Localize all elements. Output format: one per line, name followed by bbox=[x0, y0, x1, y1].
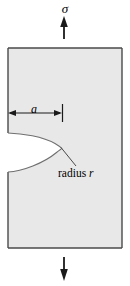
diagram-canvas bbox=[0, 0, 130, 286]
crack-length-label: a bbox=[0, 103, 68, 115]
radius-word: radius bbox=[58, 167, 86, 179]
radius-symbol: r bbox=[89, 167, 93, 179]
stress-symbol-label: σ bbox=[0, 2, 130, 15]
plate-body-shape bbox=[8, 48, 122, 248]
notch-radius-label: radius r bbox=[58, 168, 93, 180]
edge-notch-plate-diagram: σ a radius r bbox=[0, 0, 130, 286]
top-stress-arrow-head bbox=[60, 16, 68, 27]
bottom-stress-arrow-head bbox=[60, 269, 68, 281]
